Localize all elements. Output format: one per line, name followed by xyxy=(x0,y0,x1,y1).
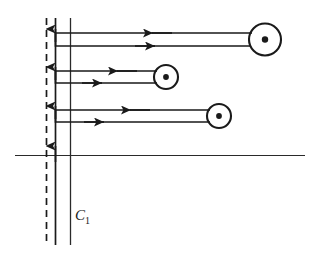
contour-diagram xyxy=(0,0,313,261)
pole-dot-middle xyxy=(163,74,169,80)
keyhole-loop-middle xyxy=(56,65,179,89)
loop-lower-path xyxy=(56,110,211,122)
keyhole-loop-upper xyxy=(56,24,282,56)
keyhole-loop-lower xyxy=(56,104,232,128)
contour-label-c1: C1 xyxy=(75,207,90,226)
pole-dot-lower xyxy=(216,113,222,119)
contour-label-letter: C xyxy=(75,207,85,223)
contour-label-subscript: 1 xyxy=(85,215,90,226)
loop-upper-path xyxy=(56,33,253,46)
pole-dot-upper xyxy=(262,36,268,42)
